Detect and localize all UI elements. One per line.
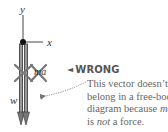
caption-line-4: is not a force. [87,116,168,129]
w-label: w [10,95,17,106]
wrong-callout-title: ◄WRONG [67,64,120,75]
pointer-arrow [45,82,86,96]
caption-line-2: belong in a free-body [87,91,168,104]
caption-line-1: This vector doesn’t [87,78,168,91]
callout-explanation: This vector doesn’t belong in a free-bod… [87,78,168,128]
ma-vector-arrow [23,44,30,125]
caption-text: diagram because [87,103,160,114]
ma-label: ma [34,67,46,77]
caption-emphasis: not [97,116,110,127]
caption-emphasis: ma [160,103,168,114]
caption-text: belong in a free-body [87,91,168,102]
y-axis-label: y [20,4,25,15]
caption-text: a force. [110,116,144,127]
caption-line-3: diagram because ma [87,103,168,116]
caption-text: This vector doesn’t [87,78,168,89]
caption-text: is [87,116,97,127]
x-axis-label: x [47,37,52,48]
origin-dot [20,39,26,45]
wrong-label: WRONG [75,64,119,75]
left-triangle-icon: ◄ [67,65,73,74]
free-body-diagram: y x ma w ◄WRONG This vector doesn’t belo… [0,0,168,132]
